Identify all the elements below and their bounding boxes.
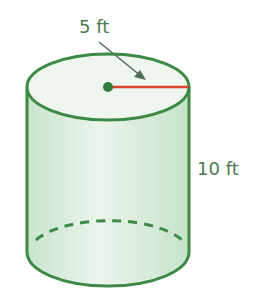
radius-label: 5 ft [79, 18, 109, 36]
center-dot [103, 82, 113, 92]
cylinder-figure [0, 0, 257, 295]
cylinder-diagram: 5 ft 10 ft [0, 0, 257, 295]
height-label: 10 ft [197, 160, 239, 178]
